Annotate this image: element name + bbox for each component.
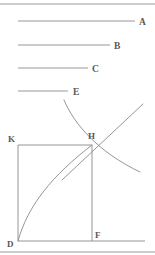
point-label-f: F [95,230,101,240]
point-label-k: K [8,134,15,144]
construction-group [18,100,145,241]
segment-label-a: A [139,17,146,27]
rising-line-through-h [62,104,143,180]
segment-label-c: C [92,64,99,74]
segment-group: A B C E [18,17,146,97]
rising-curve-dh [18,145,92,241]
point-label-d: D [7,239,14,249]
geometry-figure-panel: A B C E K H D F [0,0,155,255]
descending-curve-through-h [64,100,140,172]
segment-label-e: E [73,87,79,97]
segment-label-b: B [114,41,121,51]
point-label-h: H [88,131,95,141]
geometry-figure-canvas: A B C E K H D F [0,0,155,255]
